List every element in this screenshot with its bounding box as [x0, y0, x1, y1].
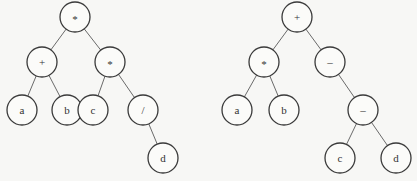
node-label: *: [107, 58, 113, 70]
tree-node: *: [95, 47, 125, 77]
node-label: –: [326, 56, 333, 68]
tree-edge: [270, 76, 278, 96]
node-label: +: [294, 11, 300, 23]
node-label: b: [281, 104, 287, 116]
tree-node: c: [78, 95, 108, 125]
tree-node: *: [60, 2, 90, 32]
tree-edge: [346, 124, 356, 145]
tree-edge: [84, 29, 101, 50]
tree-edges: [28, 29, 388, 146]
tree-edge: [371, 122, 387, 145]
node-label: –: [359, 104, 366, 116]
node-label: a: [20, 104, 25, 116]
tree-node: d: [381, 143, 411, 173]
tree-node: a: [222, 95, 252, 125]
tree-node: d: [148, 143, 178, 173]
node-label: d: [160, 152, 166, 164]
tree-edge: [28, 76, 36, 96]
tree-node: –: [348, 95, 378, 125]
node-label: d: [393, 152, 399, 164]
tree-nodes: *+*abc/d+*–ab–cd: [7, 2, 411, 173]
tree-edge: [49, 75, 60, 96]
right-tree: +*–ab–cd: [222, 2, 411, 173]
node-label: +: [39, 56, 45, 68]
tree-node: +: [27, 47, 57, 77]
node-label: b: [64, 104, 70, 116]
tree-node: c: [325, 143, 355, 173]
tree-edge: [273, 29, 288, 50]
tree-node: a: [7, 95, 37, 125]
tree-edge: [149, 124, 157, 144]
tree-node: –: [315, 47, 345, 77]
left-tree: *+*abc/d: [7, 2, 178, 173]
tree-edge: [338, 74, 354, 97]
tree-node: b: [269, 95, 299, 125]
node-label: *: [261, 58, 267, 70]
tree-node: *: [249, 47, 279, 77]
node-label: *: [72, 13, 78, 25]
tree-edge: [51, 29, 66, 50]
expression-tree-diagram: *+*abc/d+*–ab–cd: [0, 0, 417, 181]
node-label: c: [91, 104, 96, 116]
node-label: c: [338, 152, 343, 164]
tree-edge: [98, 76, 105, 96]
left-tree-edges: [28, 29, 157, 144]
tree-node: +: [282, 2, 312, 32]
tree-node: /: [128, 95, 158, 125]
tree-edge: [118, 74, 134, 97]
tree-edge: [244, 75, 256, 97]
node-label: a: [235, 104, 240, 116]
tree-edge: [306, 29, 321, 50]
